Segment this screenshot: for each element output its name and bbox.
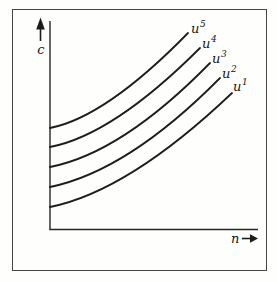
indifference-curve-u4 bbox=[50, 48, 200, 147]
x-axis-label: n bbox=[231, 232, 239, 245]
curve-label-base: u bbox=[202, 36, 210, 51]
curve-label-superscript: 5 bbox=[200, 19, 206, 29]
curve-label-superscript: 4 bbox=[211, 34, 217, 44]
y-axis-label: c bbox=[35, 43, 47, 56]
curve-label-superscript: 2 bbox=[231, 64, 237, 74]
right-arrow-icon bbox=[250, 234, 258, 242]
curve-label-base: u bbox=[222, 66, 230, 81]
curve-label-u4: u4 bbox=[202, 36, 216, 50]
indifference-curve-u1 bbox=[50, 93, 232, 207]
curve-label-u1: u1 bbox=[233, 79, 247, 93]
x-axis-arrow bbox=[242, 234, 258, 242]
curve-label-superscript: 1 bbox=[242, 77, 248, 87]
indifference-curve-u3 bbox=[50, 63, 210, 167]
figure: c n u5 u4 u3 u2 u1 bbox=[0, 0, 277, 282]
curve-label-base: u bbox=[212, 51, 220, 66]
indifference-curve-u5 bbox=[50, 33, 188, 128]
up-arrow-icon bbox=[36, 18, 45, 30]
curve-label-u5: u5 bbox=[191, 21, 205, 35]
curve-label-base: u bbox=[233, 79, 241, 94]
y-axis-arrow bbox=[36, 18, 45, 42]
curve-label-superscript: 3 bbox=[221, 49, 227, 59]
curve-label-u3: u3 bbox=[212, 51, 226, 65]
curve-label-base: u bbox=[191, 21, 199, 36]
